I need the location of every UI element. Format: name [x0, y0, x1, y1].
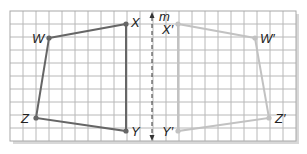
vertex-y: [123, 128, 128, 133]
vertex-w-prime: [252, 35, 257, 40]
vertex-w: [46, 35, 51, 40]
vertex-z: [33, 115, 38, 120]
label-z: Z: [20, 111, 30, 126]
vertex-y-prime: [175, 128, 180, 133]
label-w-prime: W′: [260, 31, 275, 46]
vertex-x-prime: [175, 21, 180, 26]
reflection-diagram: WXZYmX′W′Z′Y′: [0, 0, 307, 154]
label-w: W: [32, 31, 46, 46]
vertex-x: [123, 21, 128, 26]
label-y: Y: [131, 124, 141, 139]
label-x-prime: X′: [161, 22, 174, 37]
label-z-prime: Z′: [274, 111, 286, 126]
label-x: X: [130, 15, 141, 30]
vertex-z-prime: [266, 115, 271, 120]
label-y-prime: Y′: [162, 124, 174, 139]
